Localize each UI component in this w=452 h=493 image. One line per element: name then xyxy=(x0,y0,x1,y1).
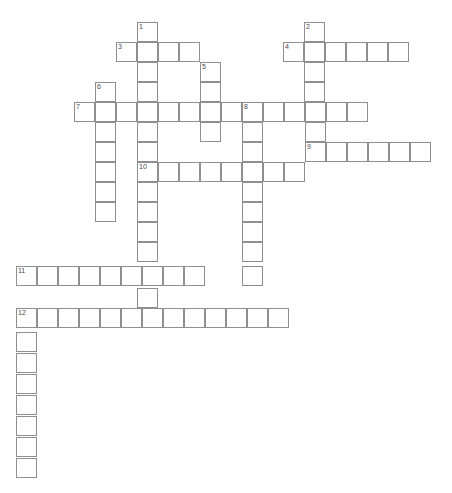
crossword-cell[interactable] xyxy=(137,182,158,202)
crossword-cell[interactable] xyxy=(242,202,263,222)
crossword-cell[interactable] xyxy=(16,395,37,415)
crossword-cell[interactable] xyxy=(142,308,163,328)
crossword-cell[interactable] xyxy=(179,102,200,122)
crossword-cell[interactable] xyxy=(200,122,221,142)
crossword-cell[interactable] xyxy=(200,102,221,122)
crossword-cell[interactable] xyxy=(388,42,409,62)
crossword-cell[interactable] xyxy=(242,122,263,142)
crossword-cell[interactable] xyxy=(16,353,37,373)
crossword-cell[interactable] xyxy=(325,42,346,62)
crossword-cell-start-12[interactable]: 12 xyxy=(16,308,37,328)
crossword-cell[interactable] xyxy=(179,162,200,182)
crossword-cell[interactable] xyxy=(347,142,368,162)
crossword-cell[interactable] xyxy=(16,458,37,478)
crossword-cell[interactable] xyxy=(242,266,263,286)
crossword-cell[interactable] xyxy=(79,266,100,286)
crossword-cell[interactable] xyxy=(163,308,184,328)
crossword-cell[interactable] xyxy=(305,102,326,122)
crossword-cell[interactable] xyxy=(242,182,263,202)
crossword-cell[interactable] xyxy=(242,242,263,262)
crossword-cell[interactable] xyxy=(263,102,284,122)
crossword-cell[interactable] xyxy=(263,162,284,182)
crossword-cell-start-8[interactable]: 8 xyxy=(242,102,263,122)
crossword-cell[interactable] xyxy=(247,308,268,328)
crossword-cell[interactable] xyxy=(200,82,221,102)
crossword-cell-start-5[interactable]: 5 xyxy=(200,62,221,82)
crossword-cell[interactable] xyxy=(137,102,158,122)
crossword-cell[interactable] xyxy=(95,162,116,182)
crossword-cell[interactable] xyxy=(37,266,58,286)
crossword-cell[interactable] xyxy=(305,122,326,142)
crossword-cell[interactable] xyxy=(121,266,142,286)
crossword-cell[interactable] xyxy=(268,308,289,328)
crossword-cell[interactable] xyxy=(95,202,116,222)
crossword-cell-start-2[interactable]: 2 xyxy=(304,22,325,42)
crossword-cell-start-10[interactable]: 10 xyxy=(137,162,158,182)
crossword-cell[interactable] xyxy=(137,122,158,142)
crossword-cell[interactable] xyxy=(137,62,158,82)
crossword-cell[interactable] xyxy=(389,142,410,162)
crossword-cell[interactable] xyxy=(242,142,263,162)
crossword-cell[interactable] xyxy=(205,308,226,328)
crossword-cell[interactable] xyxy=(179,42,200,62)
crossword-cell[interactable] xyxy=(242,162,263,182)
crossword-cell[interactable] xyxy=(368,142,389,162)
crossword-cell[interactable] xyxy=(100,308,121,328)
crossword-cell[interactable] xyxy=(326,102,347,122)
crossword-cell[interactable] xyxy=(347,102,368,122)
crossword-cell[interactable] xyxy=(16,374,37,394)
crossword-grid[interactable]: 123456789101112 xyxy=(0,0,452,493)
crossword-cell[interactable] xyxy=(137,142,158,162)
crossword-cell[interactable] xyxy=(410,142,431,162)
crossword-cell[interactable] xyxy=(137,288,158,308)
crossword-cell[interactable] xyxy=(163,266,184,286)
crossword-cell-start-9[interactable]: 9 xyxy=(305,142,326,162)
crossword-cell[interactable] xyxy=(37,308,58,328)
crossword-cell[interactable] xyxy=(137,82,158,102)
crossword-cell-start-7[interactable]: 7 xyxy=(74,102,95,122)
crossword-cell[interactable] xyxy=(121,308,142,328)
crossword-cell[interactable] xyxy=(95,142,116,162)
crossword-cell[interactable] xyxy=(184,266,205,286)
crossword-cell-start-4[interactable]: 4 xyxy=(283,42,304,62)
crossword-cell[interactable] xyxy=(79,308,100,328)
crossword-cell[interactable] xyxy=(304,42,325,62)
crossword-cell-start-3[interactable]: 3 xyxy=(116,42,137,62)
crossword-cell[interactable] xyxy=(304,62,325,82)
crossword-cell[interactable] xyxy=(226,308,247,328)
crossword-cell[interactable] xyxy=(100,266,121,286)
crossword-cell[interactable] xyxy=(116,102,137,122)
crossword-cell[interactable] xyxy=(184,308,205,328)
crossword-cell[interactable] xyxy=(200,162,221,182)
crossword-cell[interactable] xyxy=(158,102,179,122)
clue-number-2: 2 xyxy=(306,23,310,31)
crossword-cell[interactable] xyxy=(58,266,79,286)
crossword-cell[interactable] xyxy=(221,102,242,122)
crossword-cell[interactable] xyxy=(137,222,158,242)
clue-number-5: 5 xyxy=(202,63,206,71)
crossword-cell[interactable] xyxy=(95,102,116,122)
crossword-cell[interactable] xyxy=(158,162,179,182)
crossword-cell-start-11[interactable]: 11 xyxy=(16,266,37,286)
crossword-cell[interactable] xyxy=(284,162,305,182)
crossword-cell[interactable] xyxy=(346,42,367,62)
crossword-cell[interactable] xyxy=(158,42,179,62)
crossword-cell[interactable] xyxy=(137,42,158,62)
crossword-cell[interactable] xyxy=(142,266,163,286)
crossword-cell[interactable] xyxy=(242,222,263,242)
crossword-cell[interactable] xyxy=(137,202,158,222)
crossword-cell[interactable] xyxy=(16,437,37,457)
crossword-cell-start-1[interactable]: 1 xyxy=(137,22,158,42)
crossword-cell[interactable] xyxy=(58,308,79,328)
crossword-cell[interactable] xyxy=(367,42,388,62)
crossword-cell[interactable] xyxy=(16,416,37,436)
crossword-cell[interactable] xyxy=(326,142,347,162)
crossword-cell[interactable] xyxy=(221,162,242,182)
crossword-cell[interactable] xyxy=(304,82,325,102)
crossword-cell[interactable] xyxy=(95,182,116,202)
crossword-cell[interactable] xyxy=(284,102,305,122)
crossword-cell[interactable] xyxy=(137,242,158,262)
crossword-cell[interactable] xyxy=(16,332,37,352)
crossword-cell[interactable] xyxy=(95,122,116,142)
crossword-cell-start-6[interactable]: 6 xyxy=(95,82,116,102)
